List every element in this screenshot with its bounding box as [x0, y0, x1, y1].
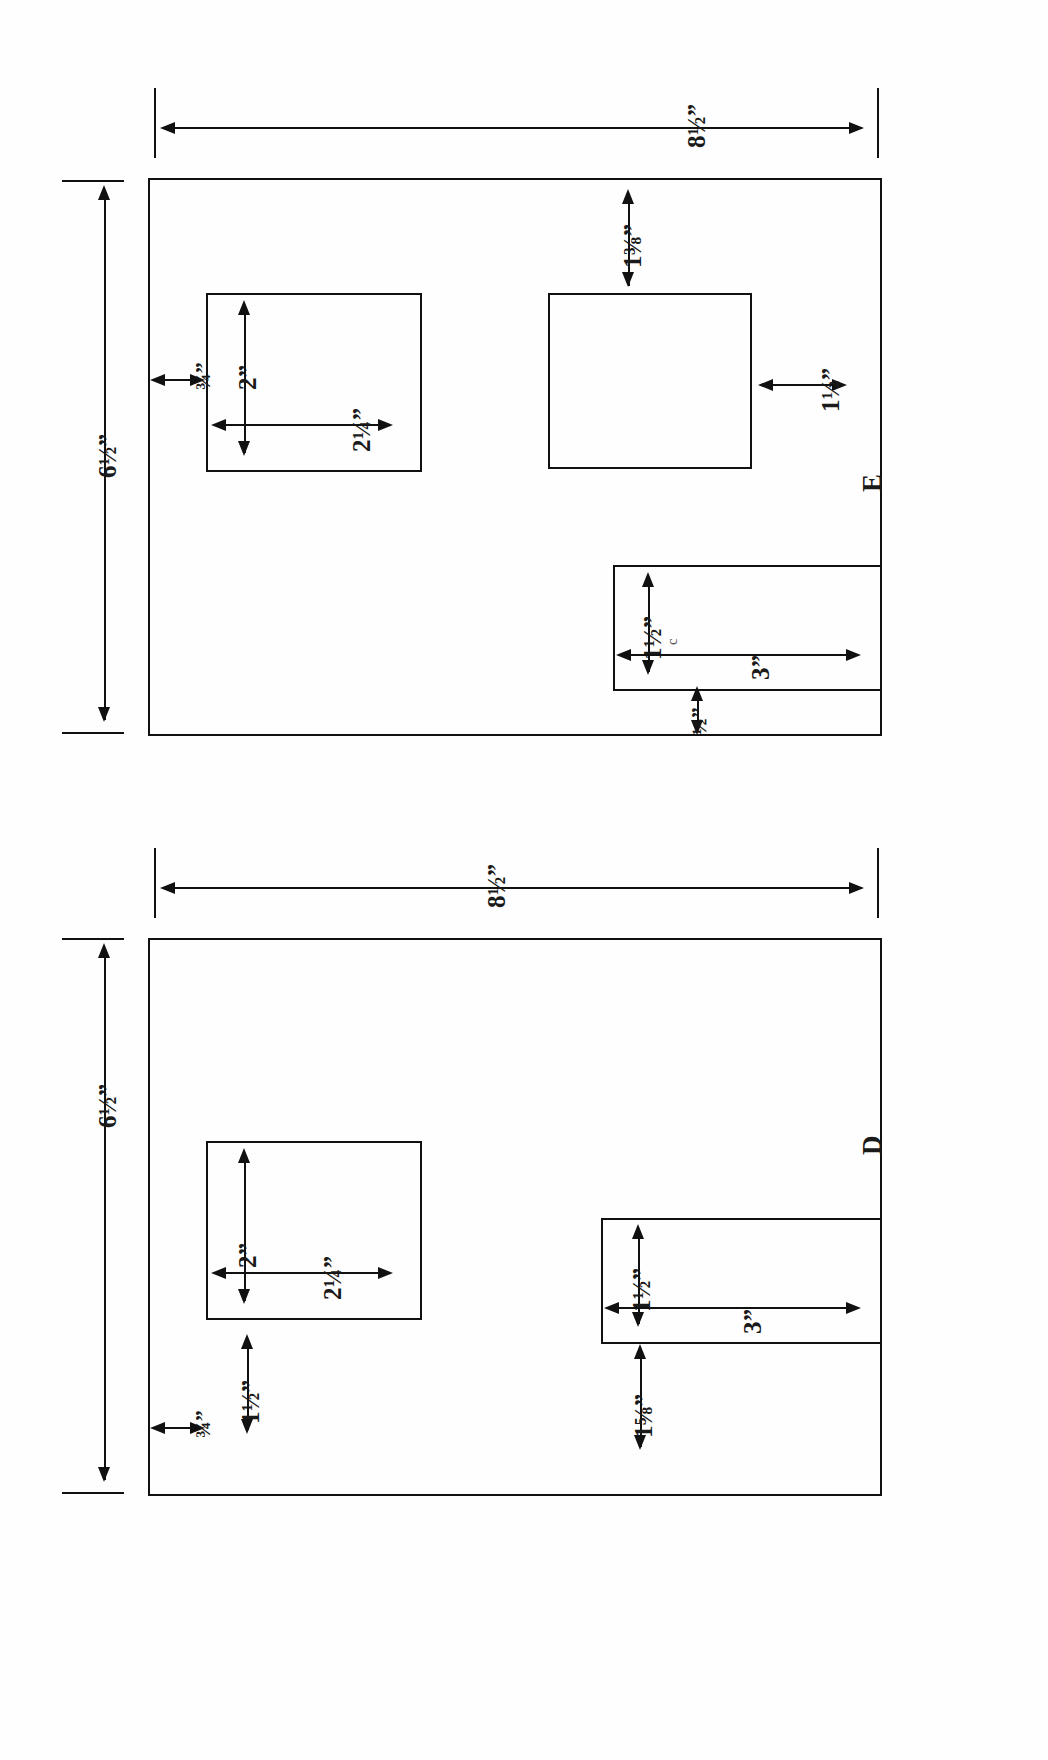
d-height-arrow-down	[98, 1467, 110, 1482]
e-lower-top-gap-arrow-up	[622, 189, 634, 204]
e-lower-top-gap-arrow-down	[622, 272, 634, 287]
d-pocket-height-label: 2”	[235, 1243, 260, 1268]
e-rect-height-arrow-up	[642, 572, 654, 587]
d-height-dimension-line	[104, 950, 106, 1480]
d-rect-width-label: 3”	[740, 1309, 765, 1334]
d-rect-height-arrow-up	[632, 1224, 644, 1239]
e-stray-mark: c	[664, 638, 681, 645]
d-rect-width-line	[615, 1307, 851, 1309]
e-pocket-width-arrow-left	[211, 419, 226, 431]
d-rect-edge-gap-label: 1⅝”	[631, 1394, 656, 1438]
e-rect-width-line	[627, 654, 851, 656]
d-panel-width-label: 8½”	[484, 864, 509, 908]
figure-label-d: D	[859, 1136, 886, 1156]
e-width-arrow-right	[849, 122, 864, 134]
e-lower-side-gap-arrow-left	[758, 379, 773, 391]
e-width-witness-left	[154, 88, 156, 158]
d-panel-height-label: 6½”	[95, 1084, 120, 1128]
d-pocket-width-label: 2¼”	[320, 1256, 345, 1300]
e-height-arrow-up	[98, 185, 110, 200]
e-rect-width-arrow-left	[616, 649, 631, 661]
e-lower-top-gap-label: 1⅜”	[620, 224, 645, 268]
d-edge-gap-label: ¾”	[192, 1410, 214, 1438]
d-pocket-bottom-gap-label: 1½”	[238, 1380, 263, 1424]
d-width-witness-right	[877, 848, 879, 918]
d-rect-height-arrow-down	[632, 1312, 644, 1327]
d-rect-height-label: 1½”	[629, 1268, 654, 1312]
d-pocket-bottom-gap-arrow-up	[241, 1334, 253, 1349]
d-rect-width-arrow-right	[846, 1302, 861, 1314]
e-rect-width-arrow-right	[846, 649, 861, 661]
d-edge-gap-arrow-left	[150, 1422, 165, 1434]
e-pocket-width-arrow-right	[378, 419, 393, 431]
d-pocket-width-line	[222, 1272, 390, 1274]
d-height-arrow-up	[98, 943, 110, 958]
d-pocket-width-arrow-left	[211, 1267, 226, 1279]
d-pocket-height-arrow-down	[238, 1289, 250, 1304]
d-pocket-height-arrow-up	[238, 1148, 250, 1163]
e-pocket-height-label: 2”	[235, 365, 260, 390]
e-height-arrow-down	[98, 707, 110, 722]
d-height-witness-top	[62, 938, 124, 940]
d-width-dimension-line	[168, 887, 862, 889]
e-edge-gap-arrow-left	[150, 374, 165, 386]
e-rect-width-label: 3”	[748, 655, 773, 680]
e-panel-height-label: 6½”	[95, 434, 120, 478]
d-width-arrow-right	[849, 882, 864, 894]
e-lower-side-gap-label: 1½”	[818, 368, 843, 412]
d-rect-width-arrow-left	[604, 1302, 619, 1314]
e-rect-edge-gap-arrow-up	[691, 686, 703, 701]
e-rect-edge-gap-label: ½”	[688, 707, 710, 735]
e-height-witness-top	[62, 180, 124, 182]
e-edge-gap-label: ¾”	[192, 362, 214, 390]
e-width-dimension-line	[168, 127, 862, 129]
d-rect-edge-gap-arrow-up	[634, 1344, 646, 1359]
d-pocket-height-line	[244, 1156, 246, 1301]
d-width-witness-left	[154, 848, 156, 918]
e-pocket-width-label: 2¼”	[349, 408, 374, 452]
d-pocket-width-arrow-right	[378, 1267, 393, 1279]
panel-e-lower-pocket	[548, 293, 752, 469]
drawing-page: 8½” 6½” ¾” 2” 2¼” 1⅜” 1½” 1½” 3”	[0, 0, 1048, 1760]
figure-label-e: E	[859, 474, 886, 492]
e-pocket-height-arrow-up	[238, 300, 250, 315]
e-rect-height-arrow-down	[642, 660, 654, 675]
d-height-witness-bottom	[62, 1492, 124, 1494]
e-panel-width-label: 8½”	[684, 104, 709, 148]
e-pocket-height-arrow-down	[238, 441, 250, 456]
d-width-arrow-left	[160, 882, 175, 894]
e-width-witness-right	[877, 88, 879, 158]
e-height-witness-bottom	[62, 732, 124, 734]
e-width-arrow-left	[160, 122, 175, 134]
